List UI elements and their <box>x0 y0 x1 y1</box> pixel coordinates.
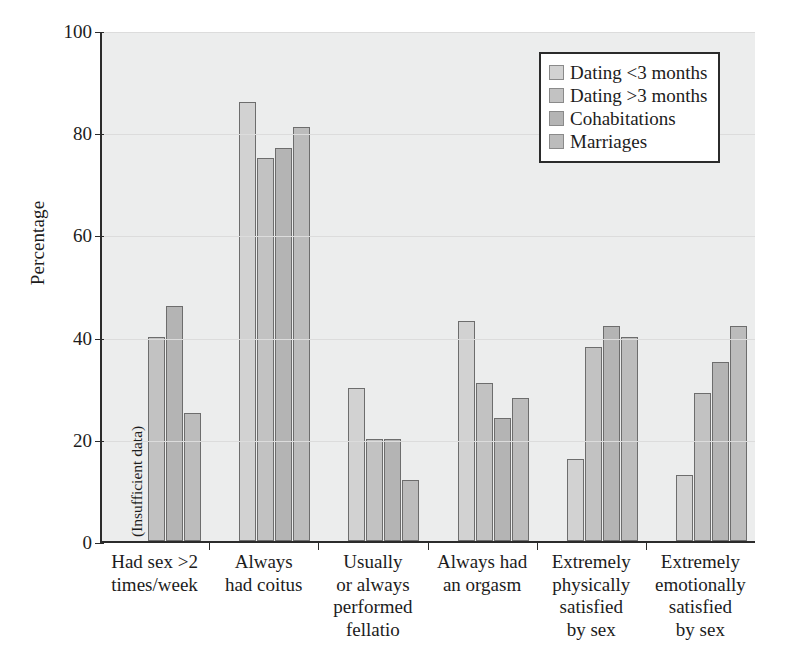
x-axis-category-label-line: Extremely <box>640 551 761 574</box>
bar <box>293 127 310 541</box>
x-axis-category-label-line: Always <box>203 551 324 574</box>
bar <box>348 388 365 541</box>
bar <box>621 337 638 541</box>
x-axis-category-label-line: or always <box>312 574 433 597</box>
x-axis-category-label-line: by sex <box>640 619 761 642</box>
x-axis-tick-mark <box>537 543 538 550</box>
x-axis-category-label-line: Always had <box>422 551 543 574</box>
legend-color-swatch <box>549 88 564 103</box>
x-axis-category-label: Always hadan orgasm <box>422 551 543 596</box>
gridline <box>102 441 755 442</box>
legend-item: Cohabitations <box>549 107 707 130</box>
x-axis-category-label-line: emotionally <box>640 574 761 597</box>
y-axis-tick-labels: 100806040200 <box>48 32 92 543</box>
legend-item: Dating >3 months <box>549 84 707 107</box>
y-axis-tick-mark <box>95 339 104 340</box>
bar <box>494 418 511 541</box>
x-axis-category-label-line: fellatio <box>312 619 433 642</box>
bar-chart-figure: Percentage 100806040200 (Insufficient da… <box>0 0 792 669</box>
x-axis-category-label-line: satisfied <box>640 596 761 619</box>
y-axis-tick-label: 60 <box>48 225 92 247</box>
bar <box>402 480 419 541</box>
insufficient-data-note: (Insufficient data) <box>128 426 146 537</box>
x-axis-category-label-line: physically <box>531 574 652 597</box>
y-axis-tick-mark <box>95 543 104 544</box>
y-axis-tick-mark <box>95 32 104 33</box>
bar <box>184 413 201 541</box>
x-axis-category-label: Usuallyor alwaysperformedfellatio <box>312 551 433 641</box>
y-axis-tick-label: 0 <box>48 532 92 554</box>
bar <box>239 102 256 541</box>
legend-label: Cohabitations <box>570 109 676 128</box>
bar <box>148 337 165 541</box>
gridline <box>102 236 755 237</box>
x-axis-category-label-line: Usually <box>312 551 433 574</box>
bar <box>166 306 183 541</box>
bar <box>676 475 693 541</box>
x-axis-category-label: Extremelyemotionallysatisfiedby sex <box>640 551 761 641</box>
y-axis-tick-mark <box>95 236 104 237</box>
legend-item: Marriages <box>549 130 707 153</box>
bar <box>275 148 292 541</box>
x-axis-category-label: Had sex >2times/week <box>94 551 215 596</box>
legend-label: Marriages <box>570 132 647 151</box>
y-axis-tick-mark <box>95 134 104 135</box>
bar <box>366 439 383 541</box>
gridline <box>102 32 755 33</box>
bar <box>585 347 602 541</box>
legend-color-swatch <box>549 134 564 149</box>
bar <box>567 459 584 541</box>
bar <box>694 393 711 541</box>
bar <box>730 326 747 541</box>
y-axis-tick-label: 20 <box>48 430 92 452</box>
y-axis-tick-label: 40 <box>48 328 92 350</box>
bar <box>384 439 401 541</box>
x-axis-tick-mark <box>318 543 319 550</box>
x-axis-tick-mark <box>428 543 429 550</box>
x-axis-tick-mark <box>646 543 647 550</box>
y-axis-tick-mark <box>95 441 104 442</box>
x-axis-category-label-line: times/week <box>94 574 215 597</box>
legend-color-swatch <box>549 65 564 80</box>
gridline <box>102 339 755 340</box>
x-axis-category-label-line: by sex <box>531 619 652 642</box>
bar <box>512 398 529 541</box>
x-axis-category-labels: Had sex >2times/weekAlwayshad coitusUsua… <box>100 551 755 663</box>
bar <box>257 158 274 541</box>
y-axis-tick-label: 80 <box>48 123 92 145</box>
x-axis-category-label-line: Had sex >2 <box>94 551 215 574</box>
x-axis-category-label: Alwayshad coitus <box>203 551 324 596</box>
y-axis-tick-label: 100 <box>48 21 92 43</box>
x-axis-category-label-line: had coitus <box>203 574 324 597</box>
x-axis-tick-mark <box>209 543 210 550</box>
x-axis-category-label-line: Extremely <box>531 551 652 574</box>
x-axis-category-label-line: an orgasm <box>422 574 543 597</box>
chart-legend: Dating <3 monthsDating >3 monthsCohabita… <box>539 52 720 163</box>
legend-item: Dating <3 months <box>549 61 707 84</box>
bar <box>712 362 729 541</box>
bar <box>476 383 493 541</box>
x-axis-category-label: Extremelyphysicallysatisfiedby sex <box>531 551 652 641</box>
y-axis-title: Percentage <box>27 163 49 323</box>
legend-color-swatch <box>549 111 564 126</box>
legend-label: Dating <3 months <box>570 63 707 82</box>
legend-label: Dating >3 months <box>570 86 707 105</box>
x-axis-category-label-line: satisfied <box>531 596 652 619</box>
bar <box>458 321 475 541</box>
x-axis-category-label-line: performed <box>312 596 433 619</box>
bar <box>603 326 620 541</box>
